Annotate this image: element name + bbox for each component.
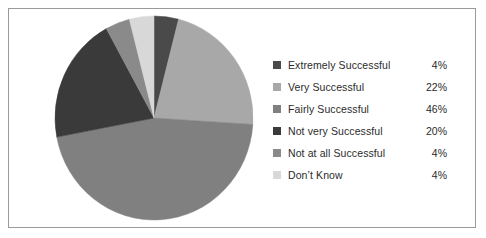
legend-swatch-icon (273, 127, 281, 135)
legend-item[interactable]: Not very Successful20% (273, 120, 453, 142)
legend-item-label: Extremely Successful (288, 59, 390, 71)
legend-item[interactable]: Fairly Successful46% (273, 98, 453, 120)
pie-slice-group (55, 16, 253, 220)
legend-item-value: 22% (419, 81, 453, 93)
plot-area: Extremely Successful4%Very Successful22%… (9, 9, 475, 227)
legend-item-value: 46% (419, 103, 453, 115)
legend-swatch-icon (273, 61, 281, 69)
legend-item-label: Not at all Successful (288, 147, 385, 159)
legend-item-label: Very Successful (288, 81, 364, 93)
legend-item-value: 4% (419, 169, 453, 181)
legend-swatch-icon (273, 83, 281, 91)
legend-swatch-icon (273, 171, 281, 179)
legend-item-value: 20% (419, 125, 453, 137)
legend-item[interactable]: Don’t Know4% (273, 164, 453, 186)
legend-item[interactable]: Extremely Successful4% (273, 54, 453, 76)
legend-item-value: 4% (419, 59, 453, 71)
legend-item[interactable]: Very Successful22% (273, 76, 453, 98)
legend-swatch-icon (273, 149, 281, 157)
pie-chart-figure: Extremely Successful4%Very Successful22%… (0, 0, 486, 238)
legend-item-value: 4% (419, 147, 453, 159)
chart-frame: Extremely Successful4%Very Successful22%… (8, 8, 476, 228)
pie-svg (54, 14, 254, 222)
pie-chart (54, 14, 254, 222)
pie-slice (57, 118, 253, 220)
legend-item-label: Not very Successful (288, 125, 383, 137)
legend-item[interactable]: Not at all Successful4% (273, 142, 453, 164)
legend-item-label: Don’t Know (288, 169, 343, 181)
legend-item-label: Fairly Successful (288, 103, 369, 115)
legend-swatch-icon (273, 105, 281, 113)
chart-legend: Extremely Successful4%Very Successful22%… (273, 54, 453, 186)
